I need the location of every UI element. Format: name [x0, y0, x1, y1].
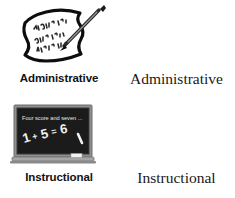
instructional-text-label: Instructional: [118, 169, 235, 187]
administrative-icon-cell[interactable]: Administrative: [0, 0, 118, 99]
handwritten-list-with-pen-icon: [8, 4, 110, 70]
instructional-icon-label: Instructional: [0, 171, 118, 183]
row-administrative: Administrative Administrative: [0, 0, 235, 99]
instructional-text-cell: Instructional: [118, 99, 235, 198]
instructional-icon-cell[interactable]: Four score and seven ... 1 + 5 = 6 Instr: [0, 99, 118, 198]
administrative-text-cell: Administrative: [118, 0, 235, 99]
row-instructional: Four score and seven ... 1 + 5 = 6 Instr: [0, 99, 235, 198]
chalkboard-icon: Four score and seven ... 1 + 5 = 6: [8, 103, 110, 169]
administrative-icon-label: Administrative: [0, 72, 118, 84]
administrative-text-label: Administrative: [118, 70, 235, 88]
chalkboard-line-1: Four score and seven ...: [22, 115, 83, 121]
